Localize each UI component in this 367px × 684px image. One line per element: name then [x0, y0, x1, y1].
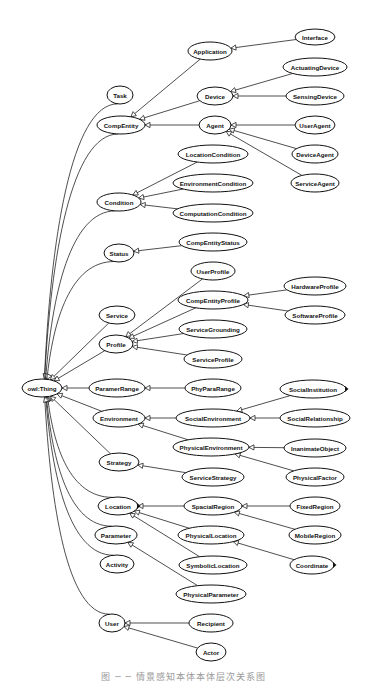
class-node-inanimateobject[interactable]: InanimateObject [284, 439, 346, 457]
class-node-spacialregion[interactable]: SpacialRegion [184, 497, 242, 515]
node-label: ServiceAgent [295, 180, 335, 187]
class-node-physicallocation[interactable]: PhysicalLocation [178, 526, 244, 544]
edge-inanimateobject-to-physicalenvironment [249, 445, 284, 450]
class-node-sensingdevice[interactable]: SensingDevice [286, 87, 344, 105]
edge-device-to-compentity [140, 101, 200, 121]
class-node-profile[interactable]: Profile [99, 335, 133, 353]
class-node-agent[interactable]: Agent [199, 116, 231, 134]
edge-actuatingdevice-to-device [231, 73, 293, 92]
edge-socialrelationship-to-socialenvironment [250, 415, 280, 420]
class-node-actuatingdevice[interactable]: ActuatingDevice [283, 58, 347, 76]
inheritance-arrow-icon [124, 625, 130, 630]
class-node-servicestrategy[interactable]: ServiceStrategy [182, 468, 244, 486]
edge-line [237, 396, 291, 412]
inheritance-arrow-icon [130, 513, 136, 518]
class-node-actor[interactable]: Actor [196, 643, 226, 661]
class-node-deviceagent[interactable]: DeviceAgent [292, 145, 338, 163]
edge-line [138, 465, 186, 473]
class-node-interface[interactable]: Interface [295, 29, 335, 45]
class-node-user[interactable]: User [99, 614, 125, 632]
node-label: SocialRelationship [287, 415, 343, 422]
class-node-socialrelationship[interactable]: SocialRelationship [280, 409, 350, 427]
node-label: Strategy [107, 459, 132, 466]
class-node-compentity[interactable]: CompEntity [97, 116, 145, 134]
class-node-application[interactable]: Application [188, 42, 232, 60]
node-label: ActuatingDevice [291, 64, 340, 71]
edge-physicalenvironment-to-environment [138, 423, 188, 440]
class-node-useragent[interactable]: UserAgent [295, 116, 335, 134]
edge-line [50, 323, 108, 380]
node-label: PhysicalParameter [183, 591, 239, 598]
node-label: DeviceAgent [296, 151, 333, 158]
node-label: CompEntityProfile [186, 297, 241, 304]
class-node-activity[interactable]: Activity [100, 555, 134, 573]
node-label: SocialInstitution [289, 386, 337, 393]
class-node-physicalfactor[interactable]: PhysicalFactor [286, 468, 344, 486]
class-node-owl-thing[interactable]: owl:Thing [22, 379, 62, 397]
node-label: Interface [302, 34, 328, 41]
inheritance-arrow-icon [250, 415, 255, 420]
edge-line [134, 246, 182, 252]
class-node-status[interactable]: Status [104, 244, 134, 262]
node-label: SpacialRegion [192, 503, 235, 510]
class-node-socialinstitution[interactable]: SocialInstitution [280, 380, 349, 398]
class-node-device[interactable]: Device [197, 87, 233, 105]
node-label: Actor [203, 649, 220, 656]
edge-sensingdevice-to-device [233, 93, 286, 98]
class-node-parameter[interactable]: Parameter [95, 526, 137, 544]
edge-profile-to-owl-thing [54, 351, 105, 381]
node-label: Service [106, 312, 129, 319]
class-node-hardwareprofile[interactable]: HardwareProfile [284, 277, 346, 295]
node-label: ServiceStrategy [190, 474, 237, 481]
class-node-environmentcondition[interactable]: EnvironmentCondition [173, 174, 253, 192]
class-node-userprofile[interactable]: UserProfile [191, 262, 235, 280]
edge-line [140, 204, 177, 208]
edge-deviceagent-to-agent [229, 128, 296, 149]
class-node-recipient[interactable]: Recipient [189, 614, 233, 632]
edge-line [234, 512, 295, 529]
node-label: SymbolicLocation [186, 562, 240, 569]
expand-marker-icon[interactable] [137, 503, 141, 509]
class-node-servicegrounding[interactable]: ServiceGrounding [179, 320, 247, 338]
class-node-serviceprofile[interactable]: ServiceProfile [184, 350, 242, 368]
node-label: Recipient [197, 620, 225, 627]
node-label: Condition [105, 199, 134, 206]
node-label: CompEntityStatus [186, 239, 240, 246]
class-node-strategy[interactable]: Strategy [99, 453, 139, 471]
edge-line [132, 334, 183, 342]
node-label: Device [205, 93, 226, 100]
class-node-task[interactable]: Task [107, 86, 133, 104]
node-label: UserAgent [299, 122, 330, 129]
class-node-service[interactable]: Service [99, 306, 135, 324]
ontology-diagram: owl:ThingTaskCompEntityApplicationInterf… [0, 0, 367, 684]
inheritance-arrow-icon [62, 385, 67, 390]
class-node-locationcondition[interactable]: LocationCondition [178, 145, 248, 163]
node-label: PhysicalEnvironment [180, 444, 243, 451]
class-node-compentityprofile[interactable]: CompEntityProfile [178, 291, 248, 309]
node-label: HardwareProfile [291, 283, 339, 290]
class-node-phypararange[interactable]: PhyParaRange [185, 379, 241, 397]
class-node-socialenvironment[interactable]: SocialEnvironment [176, 409, 250, 427]
edge-line [139, 189, 184, 198]
node-label: UserProfile [196, 268, 230, 275]
class-node-environment[interactable]: Environment [93, 409, 145, 427]
class-node-coordinate[interactable]: Coordinate [290, 556, 337, 574]
edge-mobileregion-to-spacialregion [234, 511, 295, 529]
class-node-fixedregion[interactable]: FixedRegion [290, 497, 340, 515]
class-node-physicalparameter[interactable]: PhysicalParameter [176, 585, 246, 603]
class-node-symboliclocation[interactable]: SymbolicLocation [179, 556, 247, 574]
class-node-physicalenvironment[interactable]: PhysicalEnvironment [173, 438, 249, 456]
edge-application-to-compentity [131, 59, 200, 117]
class-node-condition[interactable]: Condition [97, 193, 141, 211]
class-node-softwareprofile[interactable]: SoftwareProfile [285, 306, 345, 324]
expand-marker-icon[interactable] [333, 562, 337, 568]
class-node-compentitystatus[interactable]: CompEntityStatus [179, 233, 247, 251]
class-node-location[interactable]: Location [98, 497, 141, 515]
class-node-computationcondition[interactable]: ComputationCondition [173, 204, 253, 222]
class-node-serviceagent[interactable]: ServiceAgent [291, 174, 339, 192]
expand-marker-icon[interactable] [345, 386, 349, 392]
class-node-paramerrange[interactable]: ParamerRange [89, 379, 145, 397]
inheritance-arrow-icon [233, 93, 238, 98]
node-label: PhysicalLocation [186, 532, 237, 539]
class-node-mobileregion[interactable]: MobileRegion [289, 526, 341, 544]
